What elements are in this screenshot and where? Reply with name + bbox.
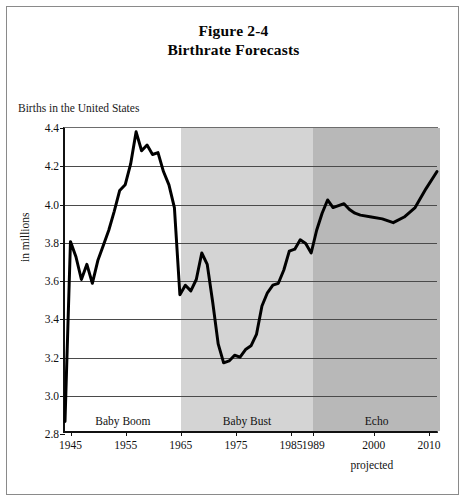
x-tick-mark [313, 431, 314, 436]
x-tick-mark [71, 431, 72, 436]
y-tick-label: 3.0 [45, 390, 59, 402]
x-tick-label: 1945 [59, 439, 82, 451]
x-tick-mark [374, 431, 375, 436]
x-tick-mark [291, 431, 292, 436]
projected-annotation: projected [350, 459, 393, 471]
birthrate-line [65, 132, 437, 422]
x-tick-label: 1965 [169, 439, 192, 451]
x-tick-mark [126, 431, 127, 436]
x-tick-label: 2010 [417, 439, 440, 451]
y-tick-label: 4.4 [45, 122, 59, 134]
x-tick-label: 2000 [362, 439, 385, 451]
plot-wrapper: 2.83.03.23.43.63.84.04.24.4 194519551965… [7, 7, 460, 496]
x-tick-label: 1989 [302, 439, 325, 451]
plot-area: 2.83.03.23.43.63.84.04.24.4 194519551965… [63, 127, 438, 433]
y-tick-label: 4.2 [45, 160, 59, 172]
y-tick-label: 3.2 [45, 352, 59, 364]
series-line-chart [65, 128, 437, 431]
x-tick-mark [181, 431, 182, 436]
figure-frame: Figure 2-4 Birthrate Forecasts Births in… [6, 6, 459, 495]
y-tick-mark [60, 434, 65, 435]
y-tick-label: 4.0 [45, 199, 59, 211]
y-tick-label: 3.6 [45, 275, 59, 287]
x-tick-label: 1985 [280, 439, 303, 451]
y-tick-label: 3.8 [45, 237, 59, 249]
x-tick-mark [236, 431, 237, 436]
y-tick-label: 3.4 [45, 313, 59, 325]
x-tick-label: 1975 [224, 439, 247, 451]
y-tick-label: 2.8 [45, 428, 59, 440]
x-tick-label: 1955 [114, 439, 137, 451]
x-tick-mark [429, 431, 430, 436]
